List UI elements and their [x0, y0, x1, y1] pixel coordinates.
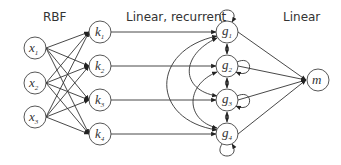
node-k3: k3	[89, 89, 111, 111]
node-x2: x2	[24, 72, 46, 94]
node-m: m	[307, 69, 329, 91]
node-x1: x1	[24, 37, 46, 59]
node-k4: k4	[89, 123, 111, 145]
node-k2: k2	[89, 55, 111, 77]
node-x3: x3	[24, 106, 46, 128]
input-to-rbf-edges	[46, 32, 89, 134]
node-g4: g4	[216, 123, 238, 145]
heading-rbf: RBF	[43, 10, 67, 24]
heading-linear: Linear	[283, 10, 320, 24]
svg-text:m: m	[312, 72, 321, 87]
node-g1: g1	[216, 21, 238, 43]
recurrent-to-output-edges	[238, 32, 306, 134]
node-g2: g2	[216, 55, 238, 77]
node-g3: g3	[216, 89, 238, 111]
network-diagram: RBF Linear, recurrent Linear	[0, 0, 341, 165]
recurrent-arcs	[167, 36, 217, 130]
node-k1: k1	[89, 21, 111, 43]
heading-linear-recurrent: Linear, recurrent	[126, 10, 227, 24]
